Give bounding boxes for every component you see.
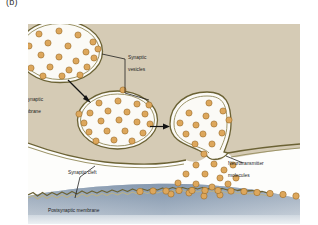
figure-root: (b) [0,0,318,224]
label-synaptic-cleft: Synaptic cleft [68,170,97,175]
label-presynaptic-membrane-line1: Presynaptic [18,97,44,102]
synaptic-transmission-diagram: Synaptic vesicles Presynaptic membrane S… [0,0,318,224]
label-neurotransmitter-line1: Neurotransmitter [228,161,264,166]
synaptic-vesicle-1 [18,21,103,83]
label-synaptic-vesicles-line2: vesicles [128,67,146,72]
label-postsynaptic-membrane: Postsynaptic membrane [48,208,100,213]
diagram-panel: Synaptic vesicles Presynaptic membrane S… [18,21,301,225]
label-presynaptic-membrane-line2: membrane [18,109,41,114]
label-synaptic-vesicles-line1: Synaptic [128,55,147,60]
label-neurotransmitter-line2: molecules [228,173,250,178]
